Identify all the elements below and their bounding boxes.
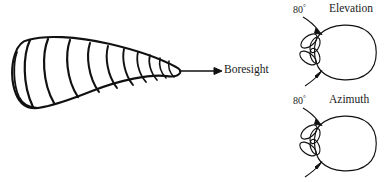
elevation-beamwidth-label: 80° — [293, 4, 306, 15]
elevation-plot-title: Elevation — [329, 3, 373, 15]
elevation-degree-symbol: ° — [303, 3, 306, 11]
azimuth-main-lobe — [314, 116, 376, 171]
azimuth-plot-title: Azimuth — [329, 94, 369, 106]
azimuth-beamwidth-label: 80° — [293, 95, 306, 106]
elevation-beamwidth-value: 80 — [293, 4, 303, 15]
antenna-boresight-figure: Boresight Elevation Azimuth 80° 80° — [0, 0, 384, 182]
azimuth-side-lobe-upper-outer — [298, 122, 319, 142]
azimuth-beamwidth-value: 80 — [293, 95, 303, 106]
azimuth-pattern-plot — [0, 0, 384, 182]
boresight-label: Boresight — [224, 64, 269, 76]
azimuth-beamwidth-arrow-lower-head — [315, 162, 322, 170]
azimuth-degree-symbol: ° — [303, 94, 306, 102]
azimuth-beamwidth-arrow-upper-head — [315, 119, 323, 126]
